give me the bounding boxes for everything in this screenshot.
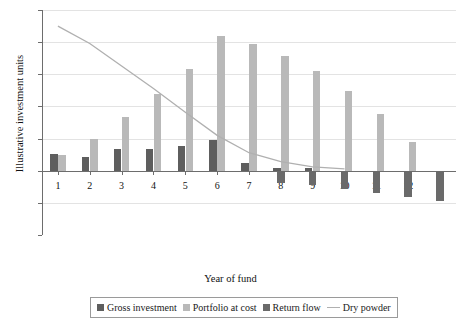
plot-area: –100–50050100150200250123456789101112: [42, 10, 456, 235]
legend-label: Return flow: [273, 303, 321, 313]
legend-swatch-icon: [97, 304, 104, 311]
legend-label: Gross investment: [107, 303, 177, 313]
chart-container: –100–50050100150200250123456789101112 Ye…: [0, 0, 461, 326]
legend-swatch-icon: [263, 304, 270, 311]
legend-label: Portfolio at cost: [193, 303, 257, 313]
legend-item[interactable]: Dry powder: [327, 303, 391, 313]
y-axis-title: Illustrative investment units: [14, 0, 25, 229]
legend-item[interactable]: Portfolio at cost: [183, 303, 257, 313]
y-axis-tick: [38, 235, 42, 236]
legend-item[interactable]: Return flow: [263, 303, 321, 313]
legend-swatch-icon: [327, 307, 340, 308]
legend-swatch-icon: [183, 304, 190, 311]
x-axis-title: Year of fund: [0, 273, 461, 284]
legend-label: Dry powder: [343, 303, 391, 313]
dry-powder-line: [42, 10, 456, 235]
legend-item[interactable]: Gross investment: [97, 303, 177, 313]
chart-legend: Gross investmentPortfolio at costReturn …: [90, 297, 398, 318]
